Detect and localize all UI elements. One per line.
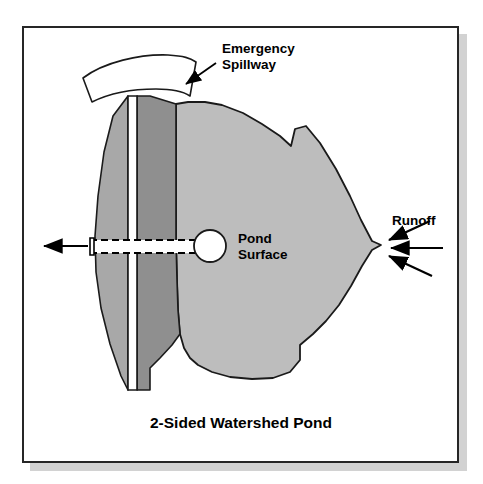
figure-title: 2-Sided Watershed Pond <box>150 414 332 431</box>
figure-root: Emergency Spillway Pond Surface Runoff 2… <box>0 0 483 484</box>
emergency-spillway-band <box>83 55 196 102</box>
runoff-label: Runoff <box>392 213 436 228</box>
pond-surface-label-line1: Pond <box>238 231 272 246</box>
riser-circle <box>194 230 226 262</box>
pond-surface-label-line2: Surface <box>238 247 288 262</box>
outlet-pipe-endcap <box>90 238 94 255</box>
runoff-arrow-lower <box>389 256 432 276</box>
emergency-spillway-label-line2: Spillway <box>222 57 277 72</box>
emergency-spillway-label-line1: Emergency <box>222 41 295 56</box>
watershed-pond-diagram: Emergency Spillway Pond Surface Runoff 2… <box>0 0 483 484</box>
